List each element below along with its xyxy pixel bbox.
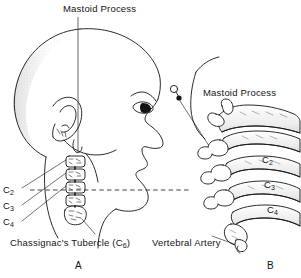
mastoid-marker-circle bbox=[170, 85, 177, 92]
label-vertebral-artery: Vertebral Artery bbox=[152, 238, 221, 248]
brow-ridge bbox=[131, 92, 156, 101]
forehead-brow-outline bbox=[80, 29, 160, 99]
label-c4-right: C4 bbox=[267, 205, 278, 216]
transverse-process-b-4 bbox=[204, 190, 234, 209]
label-chassignac-tubercle: Chassignac's Tubercle (C6) bbox=[10, 238, 130, 249]
vertebra-c2 bbox=[66, 156, 85, 167]
leader-c3-left bbox=[22, 173, 66, 205]
vertebrae-detail-b bbox=[198, 99, 300, 253]
ear-crease-3 bbox=[65, 132, 66, 137]
leader-c4-left bbox=[22, 186, 66, 221]
ear-lobe bbox=[53, 124, 55, 137]
label-c2-left: C2 bbox=[3, 185, 14, 196]
label-c3-right-sub: 3 bbox=[271, 184, 275, 191]
face-profile bbox=[116, 99, 163, 211]
label-c4-left-sub: 4 bbox=[10, 221, 14, 228]
label-c4-right-sub: 4 bbox=[274, 209, 278, 216]
mastoid-marker-dot bbox=[176, 95, 181, 100]
mandible-line bbox=[64, 140, 116, 155]
label-chassignac-suffix: ) bbox=[127, 237, 130, 248]
transverse-process-b-2 bbox=[198, 140, 228, 159]
leader-c2-left bbox=[22, 160, 66, 188]
ear-crease-1 bbox=[57, 129, 60, 134]
figure-root: Mastoid Process Mastoid Process C2 C3 C4… bbox=[0, 0, 301, 278]
label-c3-right: C3 bbox=[264, 180, 275, 191]
vertebra-b-c5 bbox=[231, 205, 300, 226]
label-c2-right-base: C bbox=[262, 154, 269, 165]
label-c3-left-base: C bbox=[3, 200, 10, 211]
label-c3-left: C3 bbox=[3, 201, 14, 212]
panel-letter-a: A bbox=[75, 260, 82, 271]
ear-helix bbox=[53, 97, 82, 141]
label-mastoid-process-top: Mastoid Process bbox=[63, 4, 136, 14]
ear-tragus bbox=[62, 125, 69, 128]
ear-antihelix bbox=[60, 106, 76, 133]
label-c2-right-sub: 2 bbox=[269, 159, 273, 166]
vertebra-c4 bbox=[66, 182, 85, 193]
skull-stipple bbox=[15, 31, 77, 146]
vertebra-c6 bbox=[64, 206, 86, 225]
panel-letter-b: B bbox=[267, 260, 274, 271]
shoulder-line bbox=[86, 154, 98, 182]
label-c3-right-base: C bbox=[264, 179, 271, 190]
label-c2-left-sub: 2 bbox=[10, 189, 14, 196]
vertebra-stack bbox=[64, 156, 86, 225]
head-profile-group bbox=[13, 28, 163, 248]
label-c4-left-base: C bbox=[3, 216, 10, 227]
eye-iris bbox=[140, 103, 151, 113]
label-c4-right-base: C bbox=[267, 204, 274, 215]
panel-b-skull-edge bbox=[196, 57, 219, 72]
leader-mastoid-b bbox=[180, 101, 213, 152]
leader-chassignac bbox=[82, 219, 95, 234]
label-c2-left-base: C bbox=[3, 184, 10, 195]
label-c4-left: C4 bbox=[3, 217, 14, 228]
transverse-process-b-3 bbox=[201, 165, 231, 184]
label-chassignac-prefix: Chassignac's Tubercle (C bbox=[10, 237, 123, 248]
label-c2-right: C2 bbox=[262, 155, 273, 166]
vertebral-artery-structure bbox=[224, 224, 247, 253]
vertebra-c5 bbox=[66, 195, 85, 206]
vertebra-c3 bbox=[66, 169, 85, 180]
label-mastoid-process-right: Mastoid Process bbox=[203, 88, 276, 98]
label-c3-left-sub: 3 bbox=[10, 205, 14, 212]
